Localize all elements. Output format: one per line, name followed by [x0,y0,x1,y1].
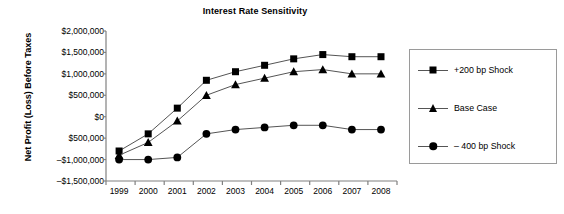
series-triangle [115,65,386,159]
data-point [202,91,211,99]
data-point [232,126,240,134]
chart-legend: +200 bp Shock Base Case – 400 bp Shock [409,49,557,164]
data-point [290,121,298,129]
legend-label-2: – 400 bp Shock [454,141,515,151]
data-point [232,68,239,75]
data-point [144,138,153,146]
legend-label-0: +200 bp Shock [454,65,513,75]
data-point [319,121,327,129]
legend-item-1[interactable]: Base Case [418,101,497,115]
data-point [318,65,327,73]
data-point [174,105,181,112]
legend-marker-square-icon [418,64,448,76]
data-series-layer [115,51,386,163]
data-point [261,124,269,132]
data-point [261,62,268,69]
data-point [319,51,326,58]
data-point [203,77,210,84]
data-point [290,55,297,62]
data-point [144,156,152,164]
data-point [202,130,210,138]
data-point [348,126,356,134]
series-square [116,51,385,154]
data-point [348,53,355,60]
data-point [115,156,123,164]
chart-figure: Interest Rate Sensitivity Net Profit (Lo… [0,0,564,214]
data-point [377,126,385,134]
legend-item-2[interactable]: – 400 bp Shock [418,139,515,153]
data-point [145,130,152,137]
legend-marker-circle-icon [418,140,448,152]
legend-marker-triangle-icon [418,102,448,114]
legend-label-1: Base Case [454,103,497,113]
x-tick-marks [106,181,397,185]
legend-item-0[interactable]: +200 bp Shock [418,63,513,77]
data-point [173,154,181,162]
data-point [377,53,384,60]
